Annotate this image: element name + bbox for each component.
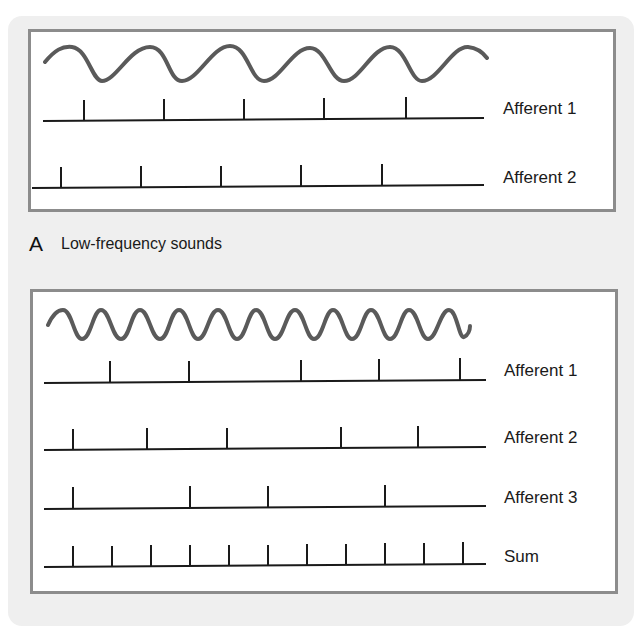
high-afferent-1-label: Afferent 1 [504,361,577,381]
high-afferent-3-label: Afferent 3 [504,488,577,508]
high-afferent-3-spike-train [44,485,486,509]
high-afferent-2-label: Afferent 2 [504,428,577,448]
high-afferent-1-spike-train [44,358,486,383]
sum-spike-train [44,542,486,567]
high-frequency-sound-wave [48,310,470,339]
sum-label: Sum [504,547,539,567]
high-afferent-2-spike-train [44,426,486,450]
